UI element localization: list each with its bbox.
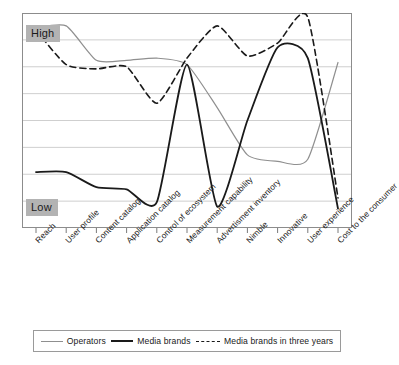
legend-swatch-media_brands bbox=[111, 340, 133, 342]
x-axis-label: Innovative bbox=[275, 211, 310, 246]
chart-legend: OperatorsMedia brandsMedia brands in thr… bbox=[33, 330, 341, 352]
x-axis-label: Reach bbox=[33, 221, 57, 245]
legend-item-operators[interactable]: Operators bbox=[41, 336, 106, 346]
x-axis-label: Cost to the consumer bbox=[335, 181, 399, 245]
legend-swatch-media_brands_three_years bbox=[196, 341, 220, 342]
legend-item-media_brands_three_years[interactable]: Media brands in three years bbox=[196, 336, 333, 346]
legend-label-media_brands: Media brands bbox=[137, 336, 190, 346]
legend-item-media_brands[interactable]: Media brands bbox=[111, 336, 190, 346]
legend-swatch-operators bbox=[41, 341, 63, 342]
legend-label-media_brands_three_years: Media brands in three years bbox=[224, 336, 333, 346]
legend-label-operators: Operators bbox=[67, 336, 106, 346]
x-axis-label: Application catalog bbox=[124, 187, 182, 245]
x-axis-label: Nimble bbox=[244, 219, 270, 245]
